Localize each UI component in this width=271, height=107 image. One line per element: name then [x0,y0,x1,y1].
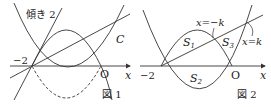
s2-label: S2 [190,72,203,86]
x-axis-label: x [125,69,132,82]
slope-label: 傾き 2 [26,8,56,20]
minus2-label: −2 [13,55,28,66]
math-figures: 傾き 2 C −2 O x 図 1 x=−k x=k S1 S3 S2 −2 O… [0,0,271,107]
pointer-minus-k [213,28,214,38]
origin-label: O [100,68,109,81]
parabola-dashed [32,66,101,98]
origin-label: O [231,69,240,82]
fig2-caption: 図 2 [237,89,257,100]
pointer-k [247,22,253,36]
curve-label: C [116,33,125,46]
x-k-label: x=k [242,36,262,47]
x-minus-k-label: x=−k [196,17,224,28]
s3-label: S3 [222,36,235,50]
x-axis-label: x [260,69,267,82]
s1-label: S1 [183,36,195,50]
diagram-container: 傾き 2 C −2 O x 図 1 x=−k x=k S1 S3 S2 −2 O… [0,0,271,107]
minus2-label: −2 [140,70,155,81]
secant-line [10,14,130,78]
fig1-caption: 図 1 [102,89,122,100]
